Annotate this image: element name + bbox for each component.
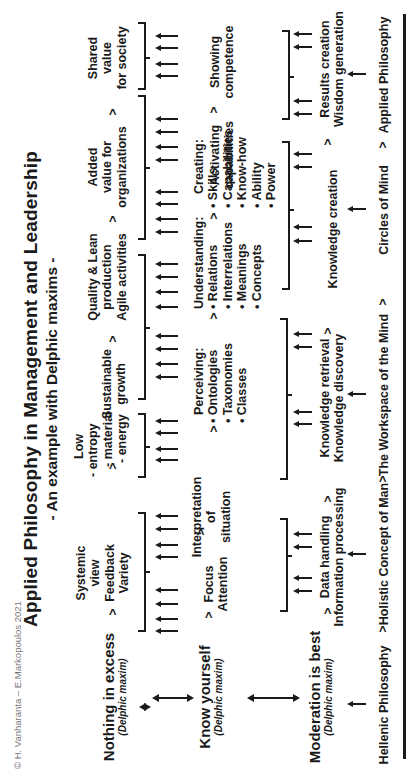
arrow-up-icon: [160, 232, 178, 234]
line: Quality & Lean: [86, 233, 100, 321]
row2-activating-capabilities: Activating capabilities: [208, 121, 237, 189]
arrow-up-icon: [298, 591, 312, 593]
line: Data handling: [318, 488, 332, 627]
arrow-up-icon: [298, 578, 312, 580]
maxim-nothing-in-excess: Nothing in excess (Delphic maxim): [100, 633, 129, 761]
maxim-sub: (Delphic maxim): [213, 645, 225, 748]
line: Agile activities: [115, 233, 129, 321]
arrow-up-icon: [160, 449, 178, 451]
arrow-up-icon: [160, 590, 178, 592]
arrow-up-icon: [160, 545, 178, 547]
arrow-up-icon: [298, 424, 312, 426]
bracket-tick: [145, 167, 150, 169]
arrow-up-icon: [160, 631, 178, 633]
bottom-circles-of-mind: Circles of Mind: [377, 165, 391, 255]
arrow-up-icon: [298, 154, 312, 156]
arrow-up-icon: [160, 336, 178, 338]
line: Sustainable: [100, 349, 114, 419]
bracket-tick: [145, 571, 150, 573]
list-item: • Power: [264, 130, 278, 208]
maxim-know-yourself: Know yourself (Delphic maxim): [196, 645, 225, 748]
separator: >: [322, 138, 336, 145]
arrow-up-icon: [160, 132, 178, 134]
arrow-up-icon: [160, 516, 178, 518]
row2-showing-competence: Showing competence: [208, 26, 237, 99]
row1-sustainable-growth: Sustainable growth: [100, 349, 129, 419]
bracket-row2-a: [280, 518, 288, 612]
row3-knowledge-retrieval: Knowledge retrieval Knowledge discovery: [318, 334, 347, 463]
line: - entropy: [86, 411, 100, 477]
arrow-up-icon: [352, 704, 366, 706]
bracket-tick: [287, 555, 292, 557]
separator: >: [377, 475, 391, 482]
line: Interpretation: [190, 477, 204, 558]
separator: >: [208, 425, 222, 432]
arrow-up-icon: [160, 292, 178, 294]
arrow-up-icon: [160, 460, 178, 462]
separator: >: [107, 335, 121, 342]
row1-shared-value: Shared value for society: [86, 26, 129, 89]
separator: >: [377, 141, 391, 148]
line: Wisdom generation: [332, 11, 346, 127]
arrow-up-icon: [352, 554, 366, 556]
row3-data-handling: Data handling Information processing: [318, 488, 347, 627]
line: Attention: [216, 557, 230, 612]
arrow-up-icon: [298, 114, 312, 116]
arrow-up-icon: [160, 421, 178, 423]
list-item: • Classes: [235, 343, 249, 423]
maxim-label: Moderation is best: [306, 631, 323, 764]
separator: >: [107, 608, 121, 615]
line: Knowledge retrieval: [318, 334, 332, 463]
list-item: • Taxonomies: [221, 343, 235, 423]
arrow-up-icon: [298, 534, 312, 536]
separator: >: [203, 611, 217, 618]
list-item: • Ontologies: [206, 343, 220, 423]
bracket-row1-e: [138, 22, 146, 90]
line: - material: [101, 411, 115, 477]
bottom-hellenic-philosophy: Hellenic Philosophy: [377, 646, 391, 765]
bottom-holistic-concept: Holistic Concept of Man: [377, 483, 391, 625]
list-item: • Know-how: [235, 130, 249, 208]
bracket-row2-d: [282, 30, 290, 120]
arrow-up-icon: [160, 619, 178, 621]
diagram-subtitle: - An example with Delphic maxims -: [43, 258, 61, 521]
arrow-up-icon: [352, 394, 366, 396]
row3-results-creation: Results creation Wisdom generation: [318, 11, 347, 127]
line: view: [88, 544, 102, 602]
list-item: • Concepts: [250, 217, 264, 309]
line: Variety: [117, 544, 131, 602]
list-item: • Relations: [206, 217, 220, 309]
bracket-tick: [287, 394, 292, 396]
bracket-tick: [145, 446, 150, 448]
arrow-up-icon: [298, 412, 312, 414]
baseline-divider: [403, 14, 406, 759]
line: - energy: [115, 411, 129, 477]
line: of: [204, 477, 218, 558]
diagram-title: Applied Philosophy in Management and Lea…: [20, 151, 42, 627]
row2-interpretation: Interpretation of situation: [190, 477, 233, 558]
line: growth: [114, 349, 128, 419]
delphic-maxims-diagram: © H. Vanharanta – E.Markopoulos 2021 App…: [0, 0, 413, 779]
list-heading: Creating:: [192, 130, 206, 208]
line: Systemic: [74, 544, 88, 602]
bracket-tick: [289, 209, 294, 211]
arrow-up-icon: [160, 36, 178, 38]
arrow-up-icon: [160, 529, 178, 531]
arrow-up-icon: [160, 48, 178, 50]
double-arrow-2: [252, 697, 295, 699]
arrow-up-icon: [298, 241, 312, 243]
bottom-workspace-of-mind: The Workspace of the Mind: [377, 314, 391, 476]
list-item: • Interrelations: [221, 217, 235, 309]
arrow-up-icon: [160, 364, 178, 366]
bracket-row2-c: [282, 141, 290, 290]
arrow-up-icon: [160, 349, 178, 351]
line: competence: [222, 26, 236, 99]
maxim-sub: (Delphic maxim): [117, 633, 129, 761]
line: Added: [86, 126, 100, 207]
line: Shared: [86, 26, 100, 89]
bracket-row2-b: [280, 318, 288, 480]
separator: >: [208, 106, 222, 113]
arrow-up-icon: [160, 76, 178, 78]
double-arrow-1: [157, 697, 189, 699]
arrow-up-icon: [160, 433, 178, 435]
